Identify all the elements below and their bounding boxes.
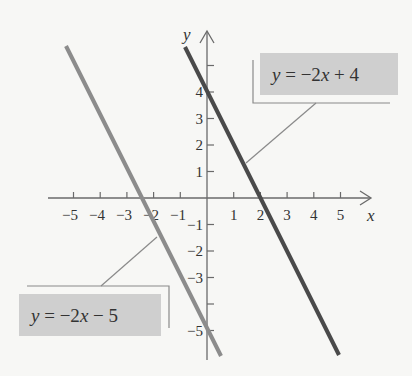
- equation-label-top: y = −2x + 4: [270, 64, 360, 85]
- x-tick-label: −5: [62, 207, 78, 223]
- x-tick-label: −4: [89, 207, 105, 223]
- y-tick-label: 3: [196, 111, 204, 127]
- x-tick-label: 4: [310, 207, 318, 223]
- y-tick-label: 2: [196, 137, 204, 153]
- leader-line-top: [246, 103, 316, 163]
- y-tick-label: −5: [187, 323, 203, 339]
- x-tick-label: 3: [283, 207, 291, 223]
- y-tick-label: 1: [196, 164, 204, 180]
- y-axis-label: y: [181, 25, 191, 44]
- x-tick-labels: −5 −4 −3 −2 −1 1 2 3 4 5: [62, 207, 344, 223]
- coordinate-plane: −5 −4 −3 −2 −1 1 2 3 4 5 x 4 3 2 1 −1 −2…: [0, 0, 412, 376]
- y-tick-label: −2: [187, 243, 203, 259]
- x-tick-label: 5: [337, 207, 345, 223]
- x-axis-label: x: [366, 206, 375, 225]
- x-tick-label: −1: [170, 207, 186, 223]
- chart-canvas: −5 −4 −3 −2 −1 1 2 3 4 5 x 4 3 2 1 −1 −2…: [0, 0, 412, 376]
- x-tick-label: 2: [257, 207, 265, 223]
- x-tick-label: −3: [116, 207, 132, 223]
- y-tick-label: −1: [187, 217, 203, 233]
- callout-bottom: y = −2x − 5: [19, 237, 169, 336]
- y-tick-label: −3: [187, 270, 203, 286]
- y-tick-label: 4: [196, 84, 204, 100]
- x-axis: [48, 191, 371, 205]
- equation-label-bottom: y = −2x − 5: [29, 305, 118, 326]
- callout-top: y = −2x + 4: [246, 53, 398, 163]
- x-tick-label: 1: [230, 207, 238, 223]
- leader-line-bottom: [101, 237, 157, 286]
